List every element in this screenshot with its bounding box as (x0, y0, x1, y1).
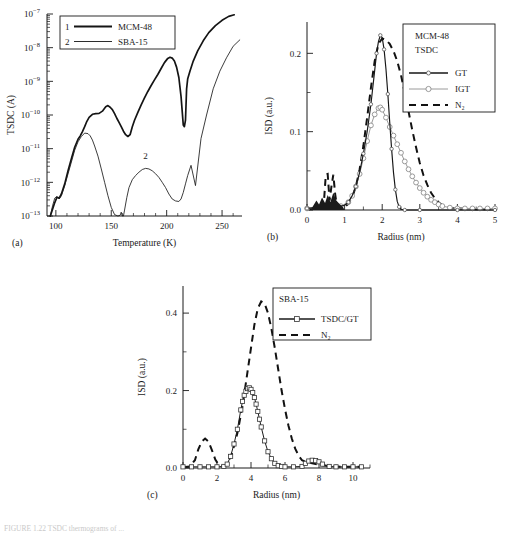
panel-c-xtick: 8 (317, 473, 322, 483)
panel-b-xtick: 0 (305, 215, 310, 225)
panel-c-tsdcgt-marker (215, 465, 219, 469)
panel-a-xtick: 200 (160, 221, 174, 231)
panel-b-igt-marker (391, 133, 396, 138)
panel-c-tsdcgt-marker (291, 465, 295, 469)
panel-c-xlabel: Radius (nm) (253, 490, 300, 501)
panel-b-igt-marker (417, 186, 422, 191)
panel-b-ylabel: ISD (a.u.) (264, 97, 275, 135)
panel-c-tag: (c) (147, 490, 158, 501)
panel-c-ylabel: ISD (a.u.) (137, 358, 148, 396)
panel-b-noise-blob (311, 193, 345, 210)
panel-b-gt-marker (305, 207, 308, 210)
panel-a-ytick: 10−13 (21, 209, 41, 221)
panel-a-ytick: 10−11 (21, 142, 40, 154)
panel-b-xlabel: Radius (nm) (377, 232, 424, 243)
panel-c-tsdcgt-marker (320, 462, 324, 466)
panel-c-tsdcgt-marker (189, 465, 193, 469)
panel-b-igt-marker (410, 174, 415, 179)
panel-c-ytick: 0.0 (166, 463, 178, 473)
panel-b-chart: 0.00.10.2012345ISD (a.u.)Radius (nm)MCM-… (255, 0, 505, 250)
panel-c-tsdcgt-marker (266, 450, 270, 454)
panel-b-ytick: 0.1 (290, 127, 301, 137)
panel-c-chart: 0.00.20.40246810ISD (a.u.)Radius (nm)SBA… (125, 268, 385, 518)
panel-b-xtick: 3 (418, 215, 423, 225)
panel-a-ytick: 10−8 (24, 41, 41, 53)
panel-b-igt-marker (399, 150, 404, 155)
panel-a-xtick: 150 (105, 221, 119, 231)
panel-c-ytick: 0.2 (166, 386, 177, 396)
panel-b-ytick: 0.0 (290, 205, 302, 215)
panel-b-ytick: 0.2 (290, 49, 301, 59)
panel-b-legend-label: IGT (455, 84, 470, 94)
panel-a-xtick: 250 (215, 221, 229, 231)
panel-b-igt-marker (380, 107, 385, 112)
panel-b-tag: (b) (267, 232, 278, 243)
panel-c-tsdcgt-marker (342, 465, 346, 469)
panel-a-inline-label-2: 2 (143, 151, 148, 161)
figure-caption: FIGURE 1.22 TSDC thermograms of ... (4, 524, 504, 533)
panel-b-igt-marker (372, 112, 377, 117)
panel-c-xtick: 4 (249, 473, 254, 483)
panel-c-ytick: 0.4 (166, 308, 178, 318)
panel-c-tsdcgt-marker (359, 465, 363, 469)
panel-b-igt-marker (369, 123, 374, 128)
panel-b-igt-marker (395, 142, 400, 147)
panel-a-legend-label: MCM-48 (118, 22, 153, 32)
panel-c-tsdcgt-marker (257, 417, 261, 421)
panel-a-legend-label: SBA-15 (118, 37, 148, 47)
panel-a-curve-sba-15 (50, 40, 239, 216)
panel-c-legend-label: TSDC/GT (321, 314, 359, 324)
panel-b-igt-marker (447, 205, 452, 210)
panel-c-legend-title: SBA-15 (279, 294, 309, 304)
panel-a-xtick: 100 (49, 221, 63, 231)
panel-b-gt-marker (397, 205, 400, 208)
panel-b-gt-marker (390, 147, 393, 150)
panel-c-tsdcgt-marker (263, 439, 267, 443)
panel-c-tsdcgt-marker (198, 465, 202, 469)
panel-c-tsdcgt-marker (256, 409, 260, 413)
panel-c-xtick: 0 (181, 473, 186, 483)
panel-b-igt-marker (414, 180, 419, 185)
panel-a-chart: 10−1310−1210−1110−1010−910−810−710015020… (0, 0, 250, 250)
panel-c-tsdcgt-marker (327, 464, 331, 468)
panel-a-ytick: 10−7 (24, 7, 41, 19)
panel-b-gt-marker (493, 208, 496, 211)
panel-b-gt-marker (354, 185, 357, 188)
panel-c-curve-tsdc-gt (183, 388, 362, 467)
panel-c-tsdcgt-marker (181, 465, 185, 469)
panel-b-legend-label: N₂ (455, 100, 465, 110)
panel-b-igt-marker (440, 204, 445, 209)
panel-c-tsdcgt-marker (239, 408, 243, 412)
panel-b-gt-marker (362, 152, 365, 155)
panel-c-tsdcgt-marker (334, 465, 338, 469)
panel-c-legend-marker-tsdcgt (295, 317, 300, 322)
panel-a-ytick: 10−9 (24, 75, 41, 87)
panel-c-tsdcgt-marker (252, 395, 256, 399)
panel-b-gt-marker (382, 48, 385, 51)
panel-c-tsdcgt-marker (235, 427, 239, 431)
panel-c-tsdcgt-marker (240, 399, 244, 403)
panel-b-gt-marker (403, 208, 406, 211)
panel-a-tag: (a) (12, 238, 23, 249)
panel-c-tsdcgt-marker (283, 465, 287, 469)
panel-b-igt-marker (402, 159, 407, 164)
panel-b-igt-marker (406, 167, 411, 172)
panel-a-ytick: 10−12 (21, 176, 40, 188)
panel-c-xtick: 6 (283, 473, 288, 483)
panel-c-xtick: 2 (215, 473, 220, 483)
panel-c-tsdcgt-marker (206, 465, 210, 469)
panel-a-legend-number: 1 (65, 22, 70, 32)
panel-b-gt-marker (379, 34, 382, 37)
panel-b-xtick: 1 (342, 215, 347, 225)
panel-b-gt-marker (418, 208, 421, 211)
panel-b-igt-marker (421, 190, 426, 195)
panel-c-tsdcgt-marker (251, 390, 255, 394)
panel-b-gt-marker (347, 200, 350, 203)
panel-c-xtick: 10 (349, 473, 359, 483)
panel-c-tsdcgt-marker (259, 425, 263, 429)
panel-c-isd-sba15: 0.00.20.40246810ISD (a.u.)Radius (nm)SBA… (125, 268, 385, 518)
panel-c-tsdcgt-marker (269, 457, 273, 461)
panel-a-tsdc-thermogram: 10−1310−1210−1110−1010−910−810−710015020… (0, 0, 250, 250)
panel-c-tsdcgt-marker (229, 454, 233, 458)
panel-b-xtick: 4 (455, 215, 460, 225)
